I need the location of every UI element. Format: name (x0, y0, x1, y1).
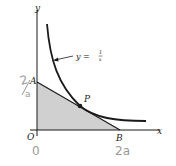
handwritten-0-below-o: 0 (32, 144, 40, 158)
x-axis-label: x (157, 126, 162, 136)
curve-equation-label: y = (75, 52, 90, 61)
point-b-label: B (115, 133, 123, 143)
y-axis-label: y (34, 3, 41, 13)
tangent-triangle-diagram: y x O A B P y = 1 x 2 a 0 2a (0, 0, 176, 166)
fraction-denominator: x (99, 56, 102, 62)
handwritten-2a-below-b: 2a (115, 144, 130, 158)
origin-label: O (27, 132, 35, 142)
point-p (78, 104, 83, 109)
point-a-label: A (29, 76, 37, 86)
fraction-numerator: 1 (99, 49, 102, 55)
handwritten-2-near-a: 2 (18, 72, 29, 88)
point-p-label: P (83, 94, 91, 104)
handwritten-a-near-a: a (25, 89, 31, 99)
